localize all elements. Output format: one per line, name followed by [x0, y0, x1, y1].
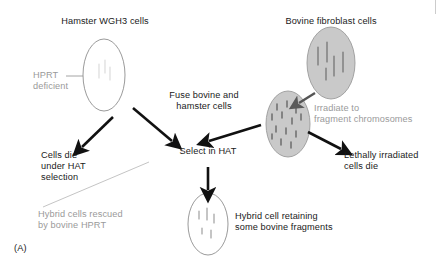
fuse-label-line1: Fuse bovine and — [152, 90, 256, 101]
hamster-wgh3-cell — [83, 39, 125, 111]
arrow-hamster-to-fuse — [133, 108, 172, 141]
hprt-deficient-label-line1: HPRT — [33, 70, 58, 81]
panel-label: (A) — [14, 243, 27, 254]
lethally-irradiated-label-line1: Lethally irradiated — [344, 150, 418, 161]
bovine-fibroblast-cell — [307, 27, 355, 99]
cells-die-label-line3: selection — [41, 172, 78, 183]
arrow-irradiated-to-fuse — [209, 125, 261, 141]
figure-canvas: Hamster WGH3 cells HPRT deficient Bovine… — [0, 0, 437, 268]
irradiate-label-line1: Irradiate to — [314, 103, 359, 114]
hybrid-cell-label-line2: some bovine fragments — [235, 222, 333, 233]
hamster-title-label: Hamster WGH3 cells — [45, 16, 165, 27]
arrow-irradiated-to-lethal — [308, 132, 341, 149]
cells-die-label-line1: Cells die — [41, 150, 77, 161]
arrow-hamster-to-cells-die — [82, 117, 113, 147]
cells-die-label-line2: under HAT — [41, 161, 86, 172]
select-in-hat-label: Select in HAT — [160, 146, 256, 157]
hprt-deficient-label-line2: deficient — [33, 81, 68, 92]
fuse-label-line2: hamster cells — [152, 101, 256, 112]
lethally-irradiated-label-line2: cells die — [344, 161, 378, 172]
bovine-title-label: Bovine fibroblast cells — [266, 16, 396, 27]
irradiate-label-line2: fragment chromosomes — [314, 114, 413, 125]
hybrid-cell-label-line1: Hybrid cell retaining — [235, 211, 318, 222]
hybrid-rescued-label-line2: by bovine HPRT — [38, 220, 106, 231]
hybrid-rescued-label-line1: Hybrid cells rescued — [38, 209, 123, 220]
hybrid-cell — [188, 193, 228, 255]
